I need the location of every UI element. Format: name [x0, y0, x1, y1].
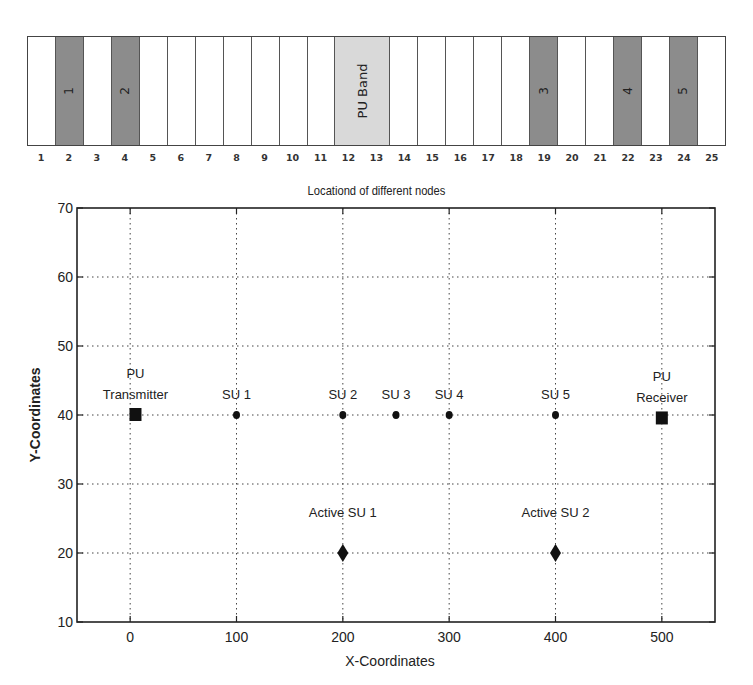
- x-tick-label: 300: [437, 629, 461, 645]
- pu-square-marker: [656, 411, 668, 424]
- su-dot-marker: [446, 411, 453, 419]
- y-tick-label: 20: [57, 545, 73, 561]
- point-label: Active SU 2: [522, 505, 590, 520]
- point-label: SU 3: [382, 387, 411, 402]
- point-label: Transmitter: [103, 387, 169, 402]
- active-su-diamond-marker: [337, 544, 348, 562]
- su-dot-marker: [552, 411, 559, 419]
- point-label: PU: [126, 366, 144, 381]
- x-tick-label: 100: [225, 629, 249, 645]
- su-dot-marker: [233, 411, 240, 419]
- point-label: SU 2: [328, 387, 357, 402]
- y-tick-label: 10: [57, 614, 73, 630]
- plot-markers: [129, 408, 667, 562]
- y-tick-label: 50: [57, 338, 73, 354]
- point-label: SU 5: [541, 387, 570, 402]
- y-tick-label: 60: [57, 269, 73, 285]
- point-label: SU 4: [435, 387, 464, 402]
- x-tick-label: 0: [126, 629, 134, 645]
- point-label: PU: [653, 369, 671, 384]
- su-dot-marker: [339, 411, 346, 419]
- point-label: SU 1: [222, 387, 251, 402]
- plot-ylabel: Y-Coordinates: [27, 367, 43, 462]
- y-tick-label: 30: [57, 476, 73, 492]
- active-su-diamond-marker: [550, 544, 561, 562]
- su-dot-marker: [393, 411, 400, 419]
- x-tick-label: 500: [650, 629, 674, 645]
- axis-ticks: 010020030040050010203040506070: [57, 200, 715, 645]
- point-label: Receiver: [636, 390, 688, 405]
- point-label: Active SU 1: [309, 505, 377, 520]
- point-labels: PUTransmitterPUReceiverSU 1SU 2SU 3SU 4S…: [103, 366, 688, 520]
- x-tick-label: 400: [544, 629, 568, 645]
- y-tick-label: 40: [57, 407, 73, 423]
- plot-xlabel: X-Coordinates: [345, 653, 435, 669]
- node-position-plot: 010020030040050010203040506070 PUTransmi…: [0, 0, 753, 685]
- pu-square-marker: [129, 408, 141, 421]
- x-tick-label: 200: [331, 629, 355, 645]
- y-tick-label: 70: [57, 200, 73, 216]
